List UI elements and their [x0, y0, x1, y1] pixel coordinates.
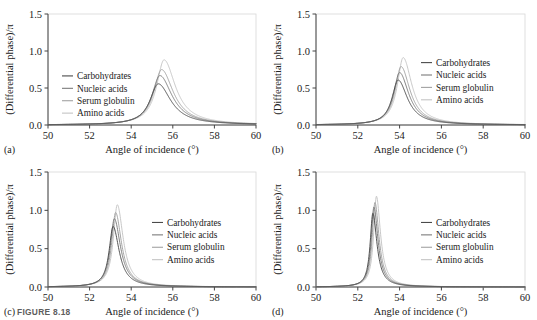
- series-line-carbohydrates: [48, 227, 256, 287]
- series-line-amino-acids: [316, 58, 525, 125]
- legend-label: Carbohydrates: [436, 218, 491, 228]
- x-tick-label: 52: [84, 130, 95, 141]
- x-tick-label: 50: [311, 130, 322, 141]
- legend-label: Amino acids: [77, 108, 125, 118]
- legend-label: Amino acids: [436, 255, 484, 265]
- plot-d: 5052545658600.00.51.01.5Angle of inciden…: [268, 158, 537, 320]
- legend-label: Amino acids: [167, 255, 215, 265]
- x-tick-label: 60: [251, 292, 262, 303]
- y-tick-label: 1.0: [297, 46, 310, 57]
- y-axis-label: (Differential phase)/π: [272, 184, 284, 275]
- x-tick-label: 58: [478, 130, 489, 141]
- series-line-nucleic-acids: [316, 73, 525, 125]
- legend-label: Carbohydrates: [167, 218, 222, 228]
- y-tick-label: 1.5: [29, 9, 42, 20]
- panel-a: 5052545658600.00.51.01.5Angle of inciden…: [0, 0, 268, 158]
- y-tick-label: 0.0: [29, 282, 42, 293]
- y-axis-label: (Differential phase)/π: [272, 24, 284, 115]
- plot-b: 5052545658600.00.51.01.5Angle of inciden…: [268, 0, 537, 158]
- x-tick-label: 60: [520, 130, 531, 141]
- x-axis-label: Angle of incidence (°): [105, 144, 199, 156]
- y-tick-label: 0.5: [29, 243, 42, 254]
- panel-label: (a): [4, 144, 15, 156]
- panel-label: (b): [272, 144, 284, 156]
- legend-label: Carbohydrates: [77, 71, 132, 81]
- y-tick-label: 1.5: [29, 167, 42, 178]
- panel-c: 5052545658600.00.51.01.5Angle of inciden…: [0, 158, 268, 320]
- series-line-carbohydrates: [316, 213, 525, 287]
- legend: CarbohydratesNucleic acidsSerum globulin…: [421, 58, 494, 105]
- y-tick-label: 0.0: [29, 120, 42, 131]
- legend-label: Nucleic acids: [77, 84, 128, 94]
- series-line-amino-acids: [316, 196, 525, 287]
- x-tick-label: 52: [84, 292, 95, 303]
- y-tick-label: 1.0: [29, 205, 42, 216]
- legend-label: Serum globulin: [167, 242, 225, 252]
- legend: CarbohydratesNucleic acidsSerum globulin…: [421, 218, 494, 265]
- legend-label: Carbohydrates: [436, 58, 491, 68]
- legend: CarbohydratesNucleic acidsSerum globulin…: [62, 71, 135, 118]
- y-tick-label: 0.0: [297, 120, 310, 131]
- x-tick-label: 54: [126, 292, 137, 303]
- y-tick-label: 0.5: [297, 243, 310, 254]
- x-tick-label: 60: [520, 292, 531, 303]
- x-tick-label: 58: [478, 292, 489, 303]
- x-tick-label: 52: [353, 292, 364, 303]
- series-line-serum-globulin: [48, 213, 256, 287]
- y-tick-label: 0.5: [297, 83, 310, 94]
- y-axis-label: (Differential phase)/π: [4, 24, 16, 115]
- y-tick-label: 1.5: [297, 167, 310, 178]
- x-tick-label: 54: [394, 130, 405, 141]
- series-line-serum-globulin: [316, 203, 525, 287]
- y-tick-label: 0.0: [297, 282, 310, 293]
- x-tick-label: 60: [251, 130, 262, 141]
- x-tick-label: 56: [436, 130, 447, 141]
- panel-b: 5052545658600.00.51.01.5Angle of inciden…: [268, 0, 537, 158]
- y-tick-label: 1.0: [29, 46, 42, 57]
- x-tick-label: 58: [209, 292, 220, 303]
- x-tick-label: 50: [311, 292, 322, 303]
- plot-c: 5052545658600.00.51.01.5Angle of inciden…: [0, 158, 268, 320]
- legend-label: Serum globulin: [436, 83, 494, 93]
- x-tick-label: 58: [209, 130, 220, 141]
- series-line-nucleic-acids: [48, 219, 256, 287]
- x-tick-label: 50: [43, 130, 54, 141]
- figure-panel-grid: 5052545658600.00.51.01.5Angle of inciden…: [0, 0, 537, 320]
- x-tick-label: 52: [353, 130, 364, 141]
- panel-label: (d): [272, 306, 284, 318]
- figure-caption: FIGURE 8.18: [17, 307, 71, 317]
- series-line-nucleic-acids: [316, 207, 525, 287]
- legend-label: Serum globulin: [77, 96, 135, 106]
- x-axis-label: Angle of incidence (°): [105, 306, 199, 318]
- legend: CarbohydratesNucleic acidsSerum globulin…: [152, 218, 225, 265]
- x-axis-label: Angle of incidence (°): [374, 306, 468, 318]
- panel-label: (c): [4, 306, 15, 318]
- legend-label: Nucleic acids: [167, 230, 218, 240]
- x-tick-label: 56: [436, 292, 447, 303]
- y-tick-label: 1.0: [297, 205, 310, 216]
- y-tick-label: 1.5: [297, 9, 310, 20]
- y-tick-label: 0.5: [29, 83, 42, 94]
- x-tick-label: 54: [394, 292, 405, 303]
- plot-a: 5052545658600.00.51.01.5Angle of inciden…: [0, 0, 268, 158]
- y-axis-label: (Differential phase)/π: [4, 184, 16, 275]
- panel-d: 5052545658600.00.51.01.5Angle of inciden…: [268, 158, 537, 320]
- legend-label: Amino acids: [436, 95, 484, 105]
- x-tick-label: 56: [168, 292, 179, 303]
- x-tick-label: 54: [126, 130, 137, 141]
- legend-label: Nucleic acids: [436, 70, 487, 80]
- x-tick-label: 56: [168, 130, 179, 141]
- series-line-carbohydrates: [316, 80, 525, 125]
- legend-label: Nucleic acids: [436, 230, 487, 240]
- series-line-amino-acids: [48, 205, 256, 287]
- legend-label: Serum globulin: [436, 242, 494, 252]
- x-tick-label: 50: [43, 292, 54, 303]
- x-axis-label: Angle of incidence (°): [374, 144, 468, 156]
